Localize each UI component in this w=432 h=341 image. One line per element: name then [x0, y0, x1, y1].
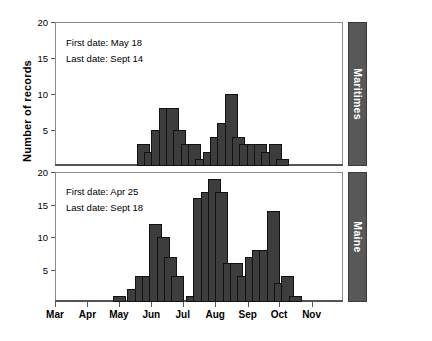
y-axis-tick-mark: [51, 172, 55, 173]
x-axis-tick-label: Sep: [239, 309, 257, 320]
annotation-first-date-maine: First date: Apr 25: [66, 186, 138, 197]
y-axis-tick-mark: [51, 22, 55, 23]
annotation-last-date-maine: Last date: Sept 18: [66, 202, 143, 213]
x-axis-tick-mark: [312, 302, 313, 307]
y-axis-tick-label: 5: [8, 264, 55, 275]
y-axis-tick-mark: [51, 270, 55, 271]
y-axis-tick-mark: [51, 58, 55, 59]
x-axis-tick-label: Aug: [205, 309, 224, 320]
y-axis-tick-label: 20: [8, 167, 55, 178]
x-axis-tick-label: Jun: [142, 309, 160, 320]
annotation-first-date-maritimes: First date: May 18: [66, 37, 142, 48]
chart-figure: Number of records 5101520 First date: Ma…: [0, 0, 432, 341]
x-axis-tick-label: Nov: [302, 309, 321, 320]
x-axis-tick-mark: [183, 302, 184, 307]
x-axis-tick-mark: [55, 302, 56, 307]
y-axis-tick-label: 10: [8, 89, 55, 100]
x-axis-tick-label: Oct: [271, 309, 288, 320]
x-axis-tick-mark: [215, 302, 216, 307]
y-axis-tick-label: 15: [8, 199, 55, 210]
bar: [276, 159, 289, 166]
x-axis-tick-label: Jul: [176, 309, 190, 320]
x-axis-tick-mark: [279, 302, 280, 307]
y-axis-tick-label: 5: [8, 125, 55, 136]
y-axis-tick-label: 10: [8, 232, 55, 243]
x-axis-tick-label: May: [109, 309, 128, 320]
y-axis-tick-mark: [51, 205, 55, 206]
x-axis-tick-label: Apr: [79, 309, 96, 320]
x-axis-tick-mark: [248, 302, 249, 307]
y-axis-tick-mark: [51, 237, 55, 238]
strip-label-maritimes-text: Maritimes: [352, 68, 364, 120]
strip-label-maine: Maine: [348, 172, 367, 302]
strip-label-maine-text: Maine: [352, 221, 364, 252]
annotation-last-date-maritimes: Last date: Sept 14: [66, 53, 143, 64]
x-axis-tick-label: Mar: [46, 309, 64, 320]
bar: [289, 296, 302, 303]
x-axis-tick-mark: [119, 302, 120, 307]
y-axis-tick-mark: [51, 130, 55, 131]
bar: [171, 276, 184, 302]
x-axis-tick-mark: [151, 302, 152, 307]
y-axis-tick-mark: [51, 94, 55, 95]
strip-label-maritimes: Maritimes: [348, 22, 367, 166]
y-axis-tick-label: 15: [8, 53, 55, 64]
y-axis-tick-label: 20: [8, 17, 55, 28]
x-axis-tick-mark: [87, 302, 88, 307]
